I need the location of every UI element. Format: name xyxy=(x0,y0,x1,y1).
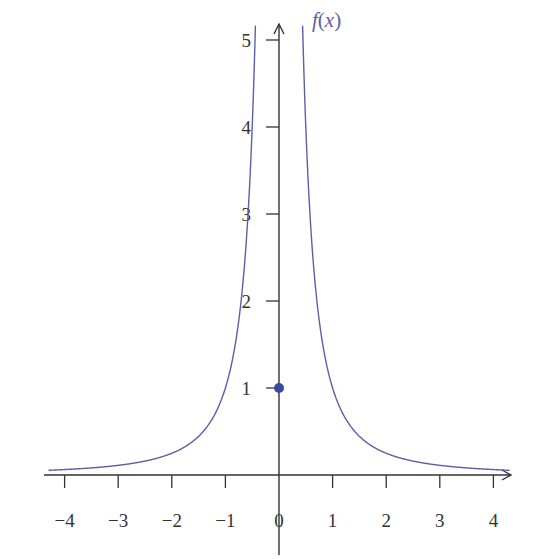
function-label: f(x) xyxy=(312,8,341,32)
y-tick-label: 4 xyxy=(242,117,252,138)
x-tick-label: −2 xyxy=(162,510,182,531)
y-tick-label: 3 xyxy=(242,204,252,225)
y-tick-labels: 12345 xyxy=(242,30,252,399)
y-tick-label: 1 xyxy=(242,378,252,399)
y-tick-label: 2 xyxy=(242,291,252,312)
axes xyxy=(44,24,511,555)
y-tick-label: 5 xyxy=(242,30,252,51)
x-tick-label: 3 xyxy=(435,510,445,531)
x-tick-label: −3 xyxy=(108,510,128,531)
x-tick-labels: −4−3−2−101234 xyxy=(54,510,498,531)
x-tick-label: 1 xyxy=(328,510,338,531)
x-tick-label: −1 xyxy=(215,510,235,531)
curve-right-branch xyxy=(303,26,510,471)
y-ticks xyxy=(266,40,279,388)
curve-left-branch xyxy=(49,26,256,471)
x-tick-label: −4 xyxy=(54,510,75,531)
x-tick-label: 2 xyxy=(381,510,391,531)
function-plot: −4−3−2−101234 12345 f(x) xyxy=(0,0,537,559)
x-tick-label: 0 xyxy=(274,510,284,531)
function-label-paren-open: ( xyxy=(318,8,325,32)
x-tick-label: 4 xyxy=(489,510,499,531)
isolated-point-marker xyxy=(274,383,284,393)
function-label-paren-close: ) xyxy=(334,8,341,32)
